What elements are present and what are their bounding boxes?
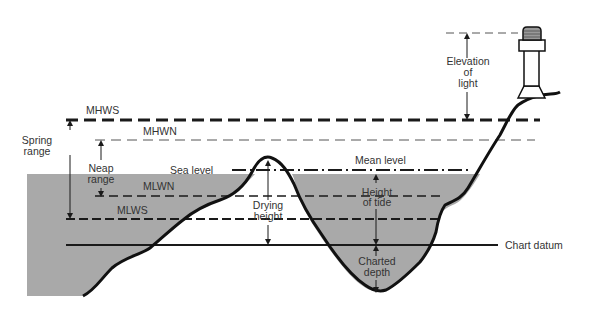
neap-range-label-2: range	[88, 173, 115, 185]
spring-range-label-2: range	[24, 145, 51, 157]
tidal-diagram: MHWS MHWN Sea level Mean level MLWN MLWS…	[0, 0, 615, 312]
mhwn-label: MHWN	[143, 125, 177, 137]
mlwn-label: MLWN	[143, 180, 174, 192]
lighthouse-icon	[518, 27, 545, 98]
chart-datum-label: Chart datum	[505, 239, 563, 251]
mlws-label: MLWS	[117, 204, 148, 216]
elevation-label-3: light	[458, 77, 477, 89]
drying-height-label-2: height	[254, 210, 283, 222]
charted-depth-label-2: depth	[364, 266, 390, 278]
height-of-tide-label-2: of tide	[363, 196, 392, 208]
water-left	[27, 174, 255, 296]
mean-level-label: Mean level	[355, 154, 406, 166]
mhws-label: MHWS	[86, 104, 119, 116]
sea-level-label: Sea level	[170, 164, 213, 176]
